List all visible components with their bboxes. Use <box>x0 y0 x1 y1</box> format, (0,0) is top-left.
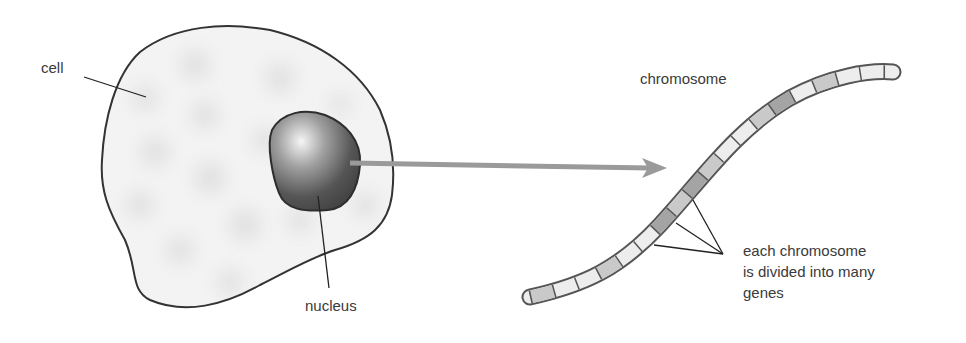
genes-label-line-3: genes <box>743 282 875 303</box>
genes-label: each chromosome is divided into many gen… <box>743 240 875 303</box>
genes-label-line-1: each chromosome <box>743 240 875 261</box>
nucleus-label: nucleus <box>305 296 357 316</box>
arrow <box>350 158 667 178</box>
cell-label: cell <box>41 58 64 78</box>
chromosome-label: chromosome <box>640 69 727 89</box>
genes-label-line-2: is divided into many <box>743 261 875 282</box>
